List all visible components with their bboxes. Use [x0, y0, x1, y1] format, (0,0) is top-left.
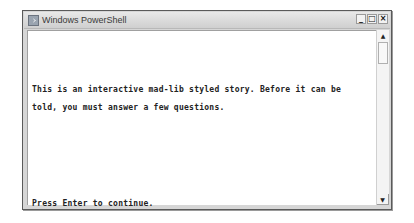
close-button[interactable]: × [378, 14, 388, 24]
console-line: This is an interactive mad-lib styled st… [32, 85, 341, 94]
console-prompt-line: Press Enter to continue. [32, 199, 154, 208]
scroll-up-arrow-icon[interactable]: ▲ [377, 30, 389, 41]
window-title: Windows PowerShell [42, 14, 127, 26]
scroll-down-arrow-icon[interactable]: ▼ [377, 194, 389, 205]
vertical-scrollbar[interactable]: ▲ ▼ [376, 30, 389, 205]
scrollbar-thumb[interactable] [378, 42, 388, 64]
console-output[interactable]: This is an interactive mad-lib styled st… [27, 30, 377, 205]
title-bar[interactable]: Windows PowerShell _ □ × [24, 12, 390, 29]
powershell-icon [28, 15, 39, 26]
minimize-button[interactable]: _ [356, 14, 366, 24]
maximize-button[interactable]: □ [367, 14, 377, 24]
window-controls: _ □ × [356, 14, 388, 24]
console-line: told, you must answer a few questions. [32, 103, 225, 112]
powershell-window: Windows PowerShell _ □ × This is an inte… [22, 10, 392, 210]
